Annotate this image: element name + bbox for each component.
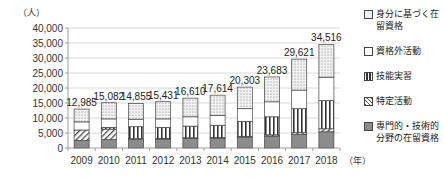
bar-segment: [319, 77, 334, 100]
bar-segment: [183, 138, 198, 148]
bar-2015: 20,303: [230, 75, 261, 148]
bar-segment: [210, 115, 225, 125]
bar-segment: [265, 117, 280, 135]
bar-segment: [183, 126, 198, 138]
bar-segment: [156, 119, 171, 127]
bar-2016: 23,683: [257, 65, 288, 148]
bar-segment: [101, 119, 116, 127]
y-tick-label: 20,000: [32, 83, 63, 94]
y-tick-label: 35,000: [32, 38, 63, 49]
bar-segment: [210, 125, 225, 137]
bar-total-label: 20,303: [230, 75, 261, 86]
x-tick-label: 2010: [98, 155, 121, 166]
y-tick-label: 10,000: [32, 113, 63, 124]
chart-legend: 身分に基づく在留資格資格外活動技能実習特定活動専門的・技術的分野の在留資格: [364, 8, 444, 157]
bar-segment: [129, 140, 144, 148]
bar-total-label: 29,621: [284, 47, 315, 58]
bar-2013: 16,610: [175, 86, 206, 148]
legend-item: 身分に基づく在留資格: [364, 8, 444, 32]
bar-segment: [74, 122, 89, 130]
bar-segment: [210, 138, 225, 148]
y-tick-label: 5,000: [38, 128, 63, 139]
y-tick-label: 15,000: [32, 98, 63, 109]
bar-segment: [101, 103, 116, 119]
legend-item: 特定活動: [364, 95, 444, 107]
bar-segment: [101, 140, 116, 148]
legend-label: 資格外活動: [376, 45, 421, 57]
x-tick-label: 2012: [152, 155, 175, 166]
bar-segment: [237, 121, 252, 136]
bar-segment: [319, 44, 334, 77]
bar-segment: [74, 109, 89, 122]
x-tick-label: 2017: [288, 155, 311, 166]
x-tick-label: 2011: [125, 155, 147, 166]
legend-label: 身分に基づく在留資格: [376, 8, 444, 32]
bar-segment: [292, 109, 307, 133]
x-tick-label: 2009: [70, 155, 93, 166]
bar-2012: 15,431: [148, 90, 179, 148]
bar-segment: [129, 103, 144, 119]
bar-segment: [156, 102, 171, 119]
legend-swatch-icon: [364, 97, 373, 106]
legend-swatch-icon: [364, 10, 373, 19]
bar-segment: [101, 129, 116, 140]
legend-label: 専門的・技術的分野の在留資格: [376, 120, 444, 144]
bar-segment: [183, 98, 198, 117]
bar-total-label: 34,516: [311, 32, 342, 43]
legend-item: 資格外活動: [364, 45, 444, 57]
y-tick-label: 0: [57, 143, 63, 154]
y-tick-label: 40,000: [32, 23, 63, 34]
bar-segment: [237, 137, 252, 148]
bar-segment: [319, 129, 334, 132]
bar-segment: [210, 95, 225, 115]
bar-segment: [156, 139, 171, 148]
bar-segment: [265, 136, 280, 148]
bars: 12,98515,08214,85515,43116,61017,61420,3…: [66, 32, 342, 148]
bar-segment: [265, 77, 280, 102]
bar-total-label: 23,683: [257, 65, 288, 76]
legend-swatch-icon: [364, 47, 373, 56]
bar-2009: 12,985: [66, 97, 97, 148]
bar-segment: [265, 102, 280, 117]
x-axis: 2009201020112012201320142015201620172018: [68, 148, 340, 166]
bar-segment: [237, 109, 252, 122]
bar-segment: [319, 101, 334, 129]
bar-segment: [156, 127, 171, 138]
bar-2014: 17,614: [202, 83, 233, 148]
y-tick-label: 25,000: [32, 68, 63, 79]
bar-segment: [74, 130, 89, 141]
bar-segment: [292, 90, 307, 109]
bar-segment: [292, 59, 307, 90]
y-axis: 05,00010,00015,00020,00025,00030,00035,0…: [32, 23, 68, 154]
legend-label: 技能実習: [376, 70, 412, 82]
legend-swatch-icon: [364, 72, 373, 81]
bar-segment: [237, 87, 252, 109]
bar-segment: [129, 119, 144, 127]
legend-item: 専門的・技術的分野の在留資格: [364, 120, 444, 144]
x-tick-label: 2013: [179, 155, 202, 166]
bar-segment: [183, 117, 198, 126]
x-tick-label: 2018: [315, 155, 338, 166]
bar-2018: 34,516: [311, 32, 342, 148]
legend-label: 特定活動: [376, 95, 412, 107]
bar-segment: [129, 127, 144, 139]
y-tick-label: 30,000: [32, 53, 63, 64]
legend-swatch-icon: [364, 122, 373, 131]
legend-item: 技能実習: [364, 70, 444, 82]
y-axis-unit-label: （人）: [18, 8, 45, 18]
x-tick-label: 2016: [261, 155, 284, 166]
x-tick-label: 2015: [234, 155, 257, 166]
bar-segment: [74, 141, 89, 149]
bar-segment: [319, 132, 334, 148]
x-tick-label: 2014: [206, 155, 229, 166]
bar-segment: [292, 134, 307, 148]
